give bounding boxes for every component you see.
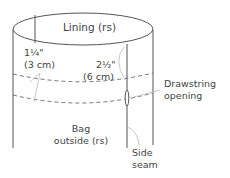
leader-drawstring xyxy=(130,90,160,98)
label-seam: seam xyxy=(132,159,158,171)
label-lining: Lining (rs) xyxy=(63,21,116,33)
label-seam-allowance-in: 1¼" xyxy=(24,47,44,59)
leader-seam-allowance xyxy=(30,73,40,102)
label-opening: opening xyxy=(164,90,202,102)
drawstring-opening xyxy=(125,90,129,106)
label-side: Side xyxy=(132,147,153,159)
label-seam-allowance-cm: (3 cm) xyxy=(24,59,55,71)
leader-casing xyxy=(119,47,125,80)
label-bag-outside: outside (rs) xyxy=(46,135,116,147)
label-bag: Bag xyxy=(46,123,116,135)
leader-side-seam xyxy=(128,127,139,145)
label-casing-in: 2½" xyxy=(96,59,116,71)
label-drawstring: Drawstring xyxy=(164,78,216,90)
label-casing-cm: (6 cm) xyxy=(83,71,114,83)
